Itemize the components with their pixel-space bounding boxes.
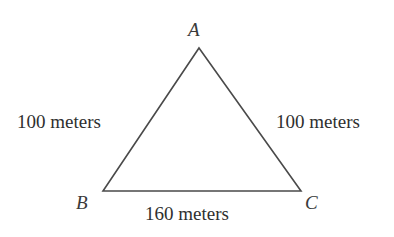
vertex-label-a: A [188, 20, 200, 39]
side-label-ac: 100 meters [276, 112, 360, 131]
side-label-ab: 100 meters [17, 112, 101, 131]
triangle-path [103, 48, 301, 191]
vertex-label-c: C [305, 193, 318, 212]
vertex-label-b: B [76, 193, 88, 212]
triangle-diagram: A B C 100 meters 100 meters 160 meters [0, 0, 394, 237]
side-label-bc: 160 meters [145, 204, 229, 223]
